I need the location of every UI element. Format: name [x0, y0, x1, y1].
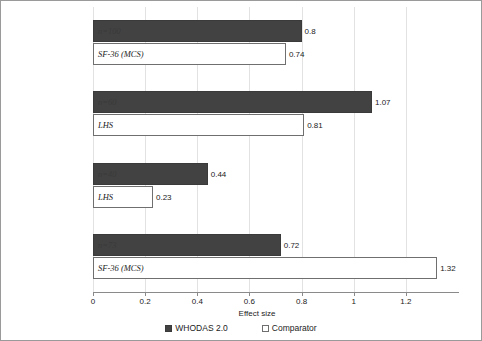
- x-tick-label: 0.2: [140, 297, 151, 306]
- bar-whodas[interactable]: n=60: [93, 91, 372, 113]
- chart-legend: WHODAS 2.0 Comparator: [1, 323, 481, 333]
- legend-swatch-whodas-icon: [165, 325, 172, 332]
- x-tick-label: 1: [351, 297, 355, 306]
- bar-value-label-whodas: 0.8: [305, 27, 316, 36]
- bar-value-label-comparator: 0.74: [289, 50, 305, 59]
- bar-row-whodas: n=1000.8: [93, 20, 458, 42]
- bar-whodas[interactable]: n=73: [93, 234, 281, 256]
- bar-value-label-comparator: 1.32: [440, 263, 456, 272]
- bar-comparator[interactable]: SF-36 (MCS): [93, 257, 437, 279]
- bar-value-label-whodas: 1.07: [375, 98, 391, 107]
- bar-annotation-comparator: LHS: [98, 192, 113, 202]
- x-tick-mark: [406, 292, 407, 296]
- bar-comparator[interactable]: SF-36 (MCS): [93, 43, 286, 65]
- x-tick-mark: [145, 292, 146, 296]
- x-tick-mark: [354, 292, 355, 296]
- x-axis-label-text: Effect size: [239, 309, 276, 318]
- bar-row-whodas: n=601.07: [93, 91, 458, 113]
- legend-label-comparator: Comparator: [272, 323, 317, 333]
- x-tick-mark: [93, 292, 94, 296]
- bar-value-label-comparator: 0.23: [156, 192, 172, 201]
- x-tick-label: 0.8: [296, 297, 307, 306]
- x-tick-label: 0.4: [192, 297, 203, 306]
- bar-whodas[interactable]: n=100: [93, 20, 302, 42]
- bar-annotation-whodas: n=40: [98, 169, 117, 179]
- x-tick-mark: [249, 292, 250, 296]
- bar-comparator[interactable]: LHS: [93, 114, 304, 136]
- bar-annotation-comparator: LHS: [98, 120, 113, 130]
- bar-value-label-whodas: 0.44: [211, 169, 227, 178]
- x-tick-label: 0: [91, 297, 95, 306]
- bar-annotation-whodas: n=60: [98, 97, 117, 107]
- bar-row-comparator: LHS0.23: [93, 186, 458, 208]
- chart-figure: Outpatient care(Mexico City)n=1000.8SF-3…: [0, 0, 482, 341]
- bar-whodas[interactable]: n=40: [93, 163, 208, 185]
- x-tick-mark: [302, 292, 303, 296]
- x-axis-label: Effect size: [1, 309, 481, 318]
- bar-annotation-comparator: SF-36 (MCS): [98, 263, 144, 273]
- x-tick-mark: [197, 292, 198, 296]
- bar-row-comparator: LHS0.81: [93, 114, 458, 136]
- bar-comparator[interactable]: LHS: [93, 186, 153, 208]
- x-tick-label: 1.2: [400, 297, 411, 306]
- bar-row-whodas: n=730.72: [93, 234, 458, 256]
- legend-item-comparator: Comparator: [262, 323, 317, 333]
- plot-area: Outpatient care(Mexico City)n=1000.8SF-3…: [93, 7, 458, 292]
- x-axis-line: [93, 292, 459, 293]
- bar-annotation-whodas: n=73: [98, 240, 117, 250]
- legend-item-whodas: WHODAS 2.0: [165, 323, 227, 333]
- bar-value-label-whodas: 0.72: [284, 240, 300, 249]
- bar-row-whodas: n=400.44: [93, 163, 458, 185]
- legend-label-whodas: WHODAS 2.0: [175, 323, 227, 333]
- bar-annotation-whodas: n=100: [98, 26, 121, 36]
- bar-value-label-comparator: 0.81: [307, 121, 323, 130]
- bar-annotation-comparator: SF-36 (MCS): [98, 49, 144, 59]
- x-tick-label: 0.6: [244, 297, 255, 306]
- bar-row-comparator: SF-36 (MCS)0.74: [93, 43, 458, 65]
- legend-swatch-comparator-icon: [262, 325, 269, 332]
- bar-row-comparator: SF-36 (MCS)1.32: [93, 257, 458, 279]
